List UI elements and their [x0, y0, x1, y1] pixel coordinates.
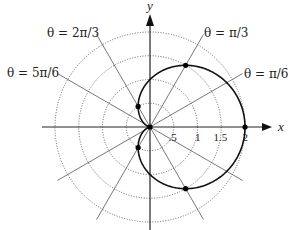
- y-axis-arrow-icon: [146, 14, 154, 26]
- x-tick-label: .5: [169, 131, 178, 143]
- x-tick-labels: .511.52: [169, 131, 248, 143]
- curve-point: [147, 124, 152, 129]
- grid-ray: [57, 74, 150, 127]
- angle-label: θ = 5π/6: [7, 66, 59, 80]
- curve-point: [183, 63, 188, 68]
- curve-point: [242, 124, 247, 129]
- polar-plot: x y .511.52 θ = π/3θ = π/6θ = 2π/3θ = 5π…: [0, 0, 288, 230]
- x-tick-label: 1.5: [213, 131, 227, 143]
- x-axis-arrow-icon: [262, 123, 272, 131]
- curve-point: [136, 104, 141, 109]
- grid-ray: [97, 127, 150, 220]
- curve-point: [136, 145, 141, 150]
- angle-labels: θ = π/3θ = π/6θ = 2π/3θ = 5π/6: [7, 26, 288, 81]
- grid-ray: [97, 34, 150, 127]
- angle-label: θ = 2π/3: [47, 26, 99, 40]
- angle-label: θ = π/6: [244, 67, 288, 81]
- y-axis-label: y: [145, 0, 153, 13]
- x-axis-label: x: [277, 119, 284, 134]
- x-tick-label: 1: [195, 131, 201, 143]
- curve-point: [183, 186, 188, 191]
- grid-ray: [150, 74, 243, 127]
- angle-label: θ = π/3: [204, 26, 248, 40]
